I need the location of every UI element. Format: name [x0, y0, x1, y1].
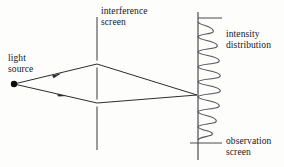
light-source-dot: [11, 81, 17, 87]
observation-screen-label: observation screen: [226, 136, 271, 158]
diffracted-ray-upper: [97, 64, 197, 95]
diffracted-rays: [97, 64, 197, 103]
intensity-distribution-label: intensity distribution: [226, 29, 271, 51]
interference-screen-label: interference screen: [101, 6, 148, 28]
diffracted-ray-lower: [97, 95, 197, 103]
interference-screen-label-line2: screen: [101, 17, 148, 28]
interference-screen-label-line1: interference: [101, 6, 148, 17]
interference-diagram: interference screen light source intensi…: [0, 0, 284, 167]
light-source-label-line2: source: [8, 64, 33, 75]
intensity-distribution-curve: [198, 22, 220, 140]
observation-screen-label-line1: observation: [226, 136, 271, 147]
intensity-distribution-label-line1: intensity: [226, 29, 271, 40]
light-source-label: light source: [8, 53, 33, 75]
intensity-distribution-label-line2: distribution: [226, 40, 271, 51]
incident-ray-lower: [14, 84, 97, 103]
observation-screen-label-line2: screen: [226, 147, 271, 158]
light-source-label-line1: light: [8, 53, 33, 64]
